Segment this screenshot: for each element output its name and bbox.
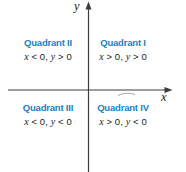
quadrant-1-condition: x > 0, y > 0 — [91, 51, 155, 62]
quadrant-4-block: Quadrant IV x > 0, y < 0 — [91, 102, 155, 127]
quadrants-diagram: y x Quadrant II x < 0, y > 0 Quadrant I … — [0, 0, 186, 172]
coordinate-axes — [0, 0, 186, 172]
quadrant-3-block: Quadrant III x < 0, y < 0 — [6, 102, 90, 127]
quadrant-1-name: Quadrant I — [91, 37, 155, 48]
quadrant-2-condition: x < 0, y > 0 — [6, 51, 90, 62]
quadrant-3-condition: x < 0, y < 0 — [6, 116, 90, 127]
quadrant-4-name: Quadrant IV — [91, 102, 155, 113]
quadrant-3-name: Quadrant III — [6, 102, 90, 113]
quadrant-2-name: Quadrant II — [6, 37, 90, 48]
y-axis-arrowhead-icon — [86, 2, 92, 10]
stray-mark — [118, 93, 135, 95]
y-axis-label: y — [74, 0, 80, 12]
quadrant-1-block: Quadrant I x > 0, y > 0 — [91, 37, 155, 62]
quadrant-2-block: Quadrant II x < 0, y > 0 — [6, 37, 90, 62]
quadrant-4-condition: x > 0, y < 0 — [91, 116, 155, 127]
x-axis-label: x — [161, 91, 167, 103]
